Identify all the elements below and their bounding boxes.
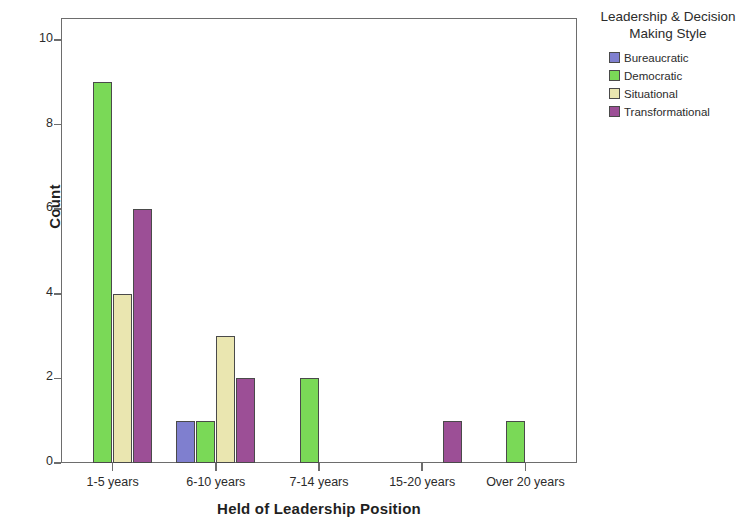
- y-tick-label: 8: [27, 116, 53, 130]
- x-tick-label: 15-20 years: [362, 475, 482, 489]
- y-tick-mark: [54, 378, 61, 380]
- x-tick-mark: [318, 463, 320, 471]
- legend-item: Transformational: [609, 104, 750, 119]
- bar: [196, 421, 215, 463]
- y-tick-mark: [54, 293, 61, 295]
- y-tick-label: 4: [27, 285, 53, 299]
- y-tick-label: 10: [27, 31, 53, 45]
- bar: [133, 209, 152, 463]
- legend-label: Situational: [624, 88, 678, 100]
- legend-title-line-2: Making Style: [588, 25, 748, 42]
- legend-item: Situational: [609, 86, 750, 101]
- bar: [93, 82, 112, 463]
- legend-title: Leadership & Decision Making Style: [588, 8, 748, 42]
- legend-item: Bureaucratic: [609, 50, 750, 65]
- legend-swatch: [609, 106, 620, 117]
- bar: [443, 421, 462, 463]
- y-tick-label: 0: [27, 454, 53, 468]
- legend-label: Democratic: [624, 70, 682, 82]
- legend-swatch: [609, 70, 620, 81]
- x-tick-label: 1-5 years: [53, 475, 173, 489]
- x-tick-mark: [215, 463, 217, 471]
- x-tick-label: 6-10 years: [156, 475, 276, 489]
- legend-label: Transformational: [624, 106, 710, 118]
- y-tick-mark: [54, 462, 61, 464]
- y-tick-mark: [54, 124, 61, 126]
- bar: [113, 294, 132, 463]
- x-tick-mark: [421, 463, 423, 471]
- x-tick-label: Over 20 years: [465, 475, 585, 489]
- y-tick-mark: [54, 208, 61, 210]
- bar: [236, 378, 255, 463]
- legend-item: Democratic: [609, 68, 750, 83]
- y-tick-label: 6: [27, 200, 53, 214]
- bar: [300, 378, 319, 463]
- bar: [506, 421, 525, 463]
- bar-chart: Count 0246810 1-5 years6-10 years7-14 ye…: [0, 0, 753, 527]
- x-tick-mark: [112, 463, 114, 471]
- bar: [176, 421, 195, 463]
- x-tick-mark: [525, 463, 527, 471]
- x-tick-label: 7-14 years: [259, 475, 379, 489]
- y-tick-mark: [54, 39, 61, 41]
- legend: Leadership & Decision Making Style Burea…: [588, 8, 750, 122]
- legend-title-line-1: Leadership & Decision: [588, 8, 748, 25]
- legend-items: BureaucraticDemocraticSituationalTransfo…: [609, 50, 750, 119]
- legend-swatch: [609, 52, 620, 63]
- legend-swatch: [609, 88, 620, 99]
- bar: [216, 336, 235, 463]
- x-axis-title: Held of Leadership Position: [61, 500, 577, 517]
- legend-label: Bureaucratic: [624, 52, 689, 64]
- y-tick-label: 2: [27, 369, 53, 383]
